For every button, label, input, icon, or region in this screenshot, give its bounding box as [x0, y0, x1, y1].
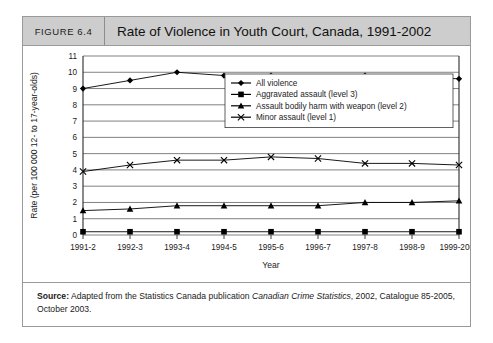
line-chart: 01234567891011 1991-21992-31993-41994-51… [23, 46, 470, 283]
x-tick-label: 1991-2 [70, 243, 96, 252]
source-note: Source: Adapted from the Statistics Cana… [37, 290, 456, 315]
x-tick-label: 1999-2000 [439, 243, 470, 252]
y-tick-label: 8 [72, 101, 77, 110]
chart-legend: All violenceAggravated assault (level 3)… [225, 74, 453, 128]
series-cross [80, 154, 462, 175]
legend-item-label: Aggravated assault (level 3) [256, 90, 358, 99]
x-tick-label: 1998-9 [399, 243, 425, 252]
y-tick-label: 6 [72, 133, 77, 142]
y-tick-label: 10 [68, 68, 78, 77]
source-publication-title: Canadian Crime Statistics [252, 291, 351, 301]
x-tick-label: 1997-8 [352, 243, 378, 252]
legend-item-label: Assault bodily harm with weapon (level 2… [256, 102, 407, 111]
y-tick-label: 4 [72, 166, 77, 175]
source-label: Source: [37, 291, 69, 301]
y-tick-label: 2 [72, 198, 77, 207]
x-tick-label: 1994-5 [211, 243, 237, 252]
x-axis-tick-labels: 1991-21992-31993-41994-51995-61996-71997… [70, 243, 470, 252]
figure-number: FIGURE 6.4 [23, 17, 105, 45]
series-square [80, 229, 462, 235]
legend-item-label: Minor assault (level 1) [256, 113, 336, 122]
y-tick-label: 0 [72, 231, 77, 240]
x-tick-label: 1992-3 [117, 243, 143, 252]
y-tick-label: 7 [72, 117, 77, 126]
y-tick-label: 5 [72, 150, 77, 159]
legend-item-label: All violence [256, 79, 298, 88]
source-text-before: Adapted from the Statistics Canada publi… [69, 291, 252, 301]
y-tick-label: 9 [72, 85, 77, 94]
y-axis-title: Rate (per 100 000 12- to 17-year-olds) [29, 72, 39, 219]
chart-area: 01234567891011 1991-21992-31993-41994-51… [23, 46, 470, 283]
x-tick-label: 1995-6 [258, 243, 284, 252]
y-tick-label: 3 [72, 182, 77, 191]
y-axis-tick-labels: 01234567891011 [68, 52, 78, 240]
figure-card: FIGURE 6.4 Rate of Violence in Youth Cou… [22, 16, 471, 327]
figure-title: Rate of Violence in Youth Court, Canada,… [105, 17, 470, 45]
figure-header: FIGURE 6.4 Rate of Violence in Youth Cou… [23, 17, 470, 46]
y-tick-label: 11 [69, 52, 78, 61]
x-axis-title: Year [262, 260, 280, 270]
series-triangle [80, 197, 463, 213]
x-tick-label: 1996-7 [305, 243, 331, 252]
y-tick-label: 1 [72, 215, 77, 224]
source-note-area: Source: Adapted from the Statistics Cana… [23, 282, 470, 326]
x-tick-label: 1993-4 [164, 243, 190, 252]
